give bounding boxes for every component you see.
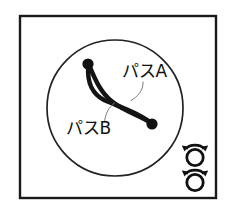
node-end-dot (146, 118, 157, 129)
path-b-label: パスB (66, 118, 111, 138)
figure-root: パスA パスB (0, 0, 232, 214)
node-start-dot (82, 58, 93, 69)
path-a-label: パスA (122, 61, 168, 81)
diagram-canvas: パスA パスB (0, 0, 232, 214)
